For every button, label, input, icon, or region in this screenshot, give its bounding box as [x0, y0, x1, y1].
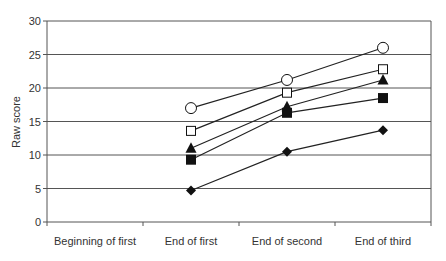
y-tick-label: 5 [35, 183, 41, 195]
square-filled-marker [378, 93, 388, 103]
y-axis-ticks: 051015202530 [29, 15, 47, 228]
x-axis-ticks: Beginning of firstEnd of firstEnd of sec… [54, 222, 411, 247]
square-open-marker [283, 88, 292, 97]
square-filled-marker [282, 108, 292, 118]
diamond-filled-marker [186, 186, 196, 196]
y-tick-label: 25 [29, 49, 41, 61]
square-filled-marker [186, 155, 196, 165]
series-lines [186, 42, 389, 195]
triangle-filled-marker [186, 142, 197, 153]
circle-open-marker [378, 42, 389, 53]
diamond-filled-marker [378, 125, 388, 135]
line-chart: 051015202530 Beginning of firstEnd of fi… [0, 0, 446, 261]
axes [47, 21, 431, 226]
series-filled-diamond [186, 125, 388, 195]
square-open-marker [379, 65, 388, 74]
y-tick-label: 0 [35, 216, 41, 228]
square-open-marker [187, 126, 196, 135]
x-tick-label: End of first [165, 235, 218, 247]
y-tick-label: 10 [29, 149, 41, 161]
x-tick-label: Beginning of first [54, 235, 136, 247]
y-tick-label: 30 [29, 15, 41, 27]
triangle-filled-marker [378, 74, 389, 85]
x-tick-label: End of third [355, 235, 411, 247]
y-tick-label: 20 [29, 82, 41, 94]
y-axis-title: Raw score [10, 96, 22, 148]
x-tick-label: End of second [252, 235, 322, 247]
y-tick-label: 15 [29, 116, 41, 128]
circle-open-marker [282, 74, 293, 85]
circle-open-marker [186, 103, 197, 114]
series-line [191, 130, 383, 190]
